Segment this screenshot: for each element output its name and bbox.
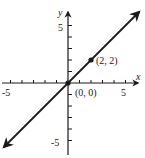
y-axis-label: y: [57, 7, 63, 18]
x-tick-label-neg5: -5: [2, 87, 10, 98]
x-axis-label: x: [135, 71, 141, 82]
x-tick-label-5: 5: [121, 87, 126, 98]
line-y-equals-x: [4, 12, 139, 147]
point-origin: [65, 80, 70, 85]
origin-label: (0, 0): [75, 87, 97, 99]
point-2-2: [88, 57, 93, 62]
point-label: (2, 2): [96, 55, 118, 67]
y-tick-label-neg5: -5: [51, 137, 59, 148]
y-tick-label-5: 5: [58, 22, 63, 33]
coordinate-plane: x y -5 5 5 -5 (0, 0) (2, 2): [0, 0, 145, 158]
